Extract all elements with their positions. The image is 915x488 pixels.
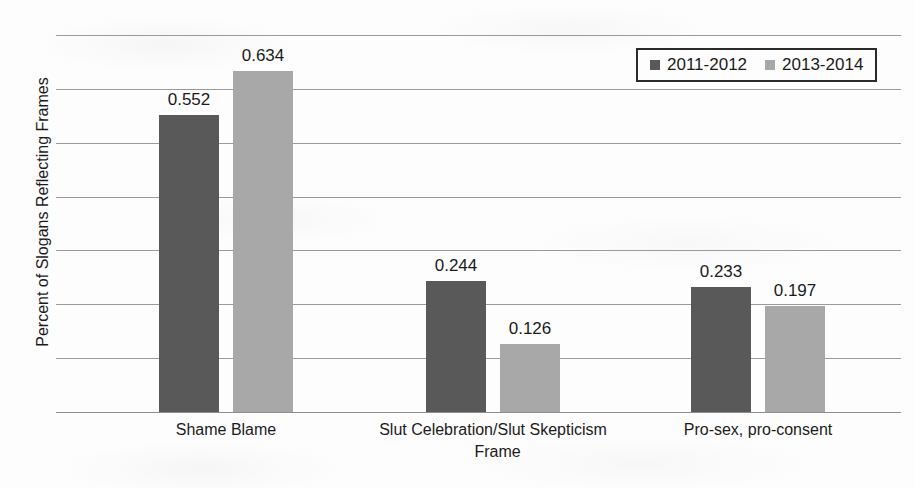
- y-axis-title: Percent of Slogans Reflecting Frames: [34, 32, 52, 392]
- bar-value-label-2011-2012-Shame Blame: 0.552: [168, 90, 211, 110]
- legend-label-2013-2014: 2013-2014: [782, 55, 863, 75]
- legend-swatch-dark-icon: [650, 60, 660, 70]
- x-axis-category-label-1: Slut Celebration/Slut Skepticism: [379, 420, 607, 439]
- bar-value-label-2013-2014-Shame Blame: 0.634: [242, 46, 285, 66]
- x-axis-category-label-0: Shame Blame: [176, 420, 277, 439]
- chart-legend: 2011-2012 2013-2014: [636, 48, 877, 82]
- legend-entry-2011-2012[interactable]: 2011-2012: [650, 55, 747, 75]
- plot-area: 00.10.20.30.40.50.60.7 0.5520.6340.2440.…: [56, 35, 901, 412]
- bar-2013-2014-Shame Blame[interactable]: [233, 71, 293, 412]
- bar-value-label-2011-2012-Pro-sex, pro-consent: 0.233: [700, 262, 743, 282]
- gridline-0.7: [56, 35, 901, 36]
- x-axis-title: Frame: [0, 443, 915, 461]
- legend-label-2011-2012: 2011-2012: [667, 55, 747, 75]
- bar-2013-2014-Slut Celebration/Slut Skepticism[interactable]: [500, 344, 560, 412]
- bar-value-label-2013-2014-Pro-sex, pro-consent: 0.197: [774, 281, 817, 301]
- bar-value-label-2013-2014-Slut Celebration/Slut Skepticism: 0.126: [509, 319, 552, 339]
- bar-2011-2012-Slut Celebration/Slut Skepticism[interactable]: [426, 281, 486, 412]
- x-axis-title-text: Frame: [474, 443, 520, 460]
- bar-2013-2014-Pro-sex, pro-consent[interactable]: [765, 306, 825, 412]
- legend-entry-2013-2014[interactable]: 2013-2014: [765, 55, 863, 75]
- bar-value-label-2011-2012-Slut Celebration/Slut Skepticism: 0.244: [435, 256, 478, 276]
- legend-swatch-light-icon: [765, 60, 775, 70]
- bar-2011-2012-Shame Blame[interactable]: [159, 115, 219, 412]
- bar-chart-figure: Percent of Slogans Reflecting Frames 00.…: [0, 0, 915, 488]
- x-axis-category-label-2: Pro-sex, pro-consent: [684, 420, 833, 439]
- gridline-0: [56, 412, 901, 413]
- bar-2011-2012-Pro-sex, pro-consent[interactable]: [691, 287, 751, 412]
